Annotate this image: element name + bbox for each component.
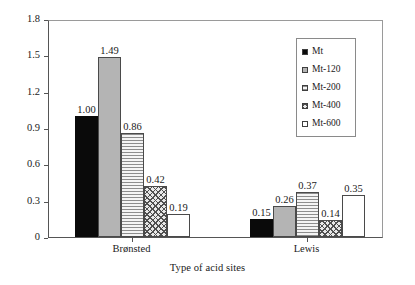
legend-swatch-icon	[302, 85, 308, 91]
bar-value-label: 0.37	[291, 180, 324, 191]
bar-value-label: 0.86	[116, 121, 149, 132]
legend-item-mt-400[interactable]: Mt-400	[302, 97, 355, 115]
legend-swatch-icon	[302, 49, 308, 55]
y-tick-label: 0.6	[27, 158, 40, 169]
x-category-label: Lewis	[257, 243, 357, 254]
bar-value-label: 1.49	[93, 45, 126, 56]
legend-label: Mt	[312, 47, 323, 57]
legend-item-mt-200[interactable]: Mt-200	[302, 79, 355, 97]
legend-item-mt-120[interactable]: Mt-120	[302, 61, 355, 79]
legend-label: Mt-400	[312, 101, 341, 111]
y-tick-label: 1.5	[27, 49, 40, 60]
legend-swatch-icon	[302, 67, 308, 73]
bar	[98, 57, 121, 237]
y-tick-label: 1.8	[27, 13, 40, 24]
x-tick-mark	[307, 238, 308, 242]
bar-value-label: 0.35	[337, 183, 370, 194]
y-tick-mark	[44, 238, 48, 239]
x-category-label: Brønsted	[82, 243, 182, 254]
bar	[75, 116, 98, 237]
y-tick-label: 0	[35, 231, 40, 242]
bar	[273, 206, 296, 237]
legend-item-mt[interactable]: Mt	[302, 43, 355, 61]
bar-value-label: 0.42	[139, 174, 172, 185]
legend-item-mt-600[interactable]: Mt-600	[302, 115, 355, 133]
legend-label: Mt-200	[312, 83, 341, 93]
bar-chart-figure: Concentration of acid sites (mmol/g) 00.…	[0, 0, 415, 285]
legend-swatch-icon	[302, 121, 308, 127]
legend-swatch-icon	[302, 103, 308, 109]
bar-value-label: 0.19	[162, 202, 195, 213]
bar	[319, 220, 342, 237]
bar	[250, 219, 273, 237]
y-tick-label: 0.3	[27, 195, 40, 206]
x-tick-mark	[132, 238, 133, 242]
legend-label: Mt-600	[312, 119, 341, 129]
y-tick-label: 1.2	[27, 86, 40, 97]
bar	[342, 195, 365, 237]
chart-legend: MtMt-120Mt-200Mt-400Mt-600	[296, 38, 356, 137]
x-axis-title: Type of acid sites	[0, 262, 415, 273]
bar	[167, 214, 190, 237]
y-tick-label: 0.9	[27, 122, 40, 133]
legend-label: Mt-120	[312, 65, 341, 75]
